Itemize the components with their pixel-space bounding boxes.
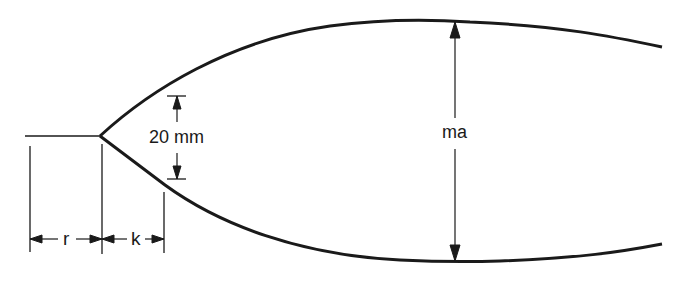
ma-dimension-label: ma bbox=[441, 123, 468, 141]
profile-diagram bbox=[0, 0, 684, 282]
lower-profile-curve bbox=[100, 136, 662, 262]
gap-dimension-label: 20 mm bbox=[148, 128, 205, 146]
upper-profile-curve bbox=[100, 20, 662, 136]
k-label: k bbox=[129, 229, 143, 248]
r-label: r bbox=[61, 229, 71, 248]
